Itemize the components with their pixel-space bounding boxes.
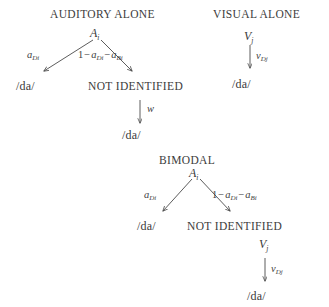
visual-edge-subscript: Dj bbox=[261, 55, 268, 63]
visual-edge-label: vDj bbox=[256, 51, 268, 62]
bimodal-left-outcome: /da/ bbox=[137, 220, 156, 232]
visual-edge-base: v bbox=[256, 50, 261, 61]
bimodal-secondary-node: Vj bbox=[259, 238, 269, 250]
bimodal-right-edge-label: 1−aDi−aBi bbox=[212, 190, 257, 201]
auditory-root-subscript: i bbox=[97, 33, 99, 42]
auditory-right-edge-term2-subscript: Bi bbox=[117, 54, 123, 62]
bimodal-left-edge-label: aDi bbox=[144, 190, 156, 201]
bimodal-right-edge-term2-subscript: Bi bbox=[251, 194, 257, 202]
auditory-left-edge-subscript: Di bbox=[32, 54, 39, 62]
visual-outcome: /da/ bbox=[232, 78, 251, 90]
bimodal-left-branch-arrow bbox=[163, 179, 192, 211]
bimodal-right-edge-term1-subscript: Di bbox=[230, 194, 237, 202]
bimodal-secondary-edge-base: v bbox=[271, 263, 276, 274]
visual-root-subscript: j bbox=[251, 36, 253, 45]
auditory-right-edge-term1-subscript: Di bbox=[96, 54, 103, 62]
bimodal-right-edge-minus-1: − bbox=[217, 189, 225, 200]
bimodal-secondary-subscript: j bbox=[266, 244, 268, 253]
auditory-left-outcome: /da/ bbox=[16, 80, 35, 92]
bimodal-secondary-edge-label: vDj bbox=[271, 264, 283, 275]
visual-alone-heading: VISUAL ALONE bbox=[213, 9, 300, 21]
auditory-right-edge-term2-base: a bbox=[111, 49, 116, 60]
auditory-right-edge-minus-1: − bbox=[83, 49, 91, 60]
visual-root-node: Vj bbox=[244, 30, 254, 42]
bimodal-not-identified-node: NOT IDENTIFIED bbox=[187, 221, 282, 233]
bimodal-secondary-edge-subscript: Dj bbox=[276, 268, 283, 276]
auditory-not-identified-node: NOT IDENTIFIED bbox=[88, 81, 183, 93]
bimodal-left-edge-subscript: Di bbox=[149, 194, 156, 202]
bimodal-right-edge-term2-base: a bbox=[245, 189, 250, 200]
bimodal-secondary-outcome: /da/ bbox=[247, 290, 266, 302]
auditory-root-node: Ai bbox=[90, 27, 100, 39]
auditory-recovery-edge-label: w bbox=[147, 104, 154, 115]
bimodal-root-subscript: i bbox=[196, 173, 198, 182]
auditory-left-edge-label: aDi bbox=[27, 50, 39, 61]
auditory-alone-heading: AUDITORY ALONE bbox=[50, 9, 155, 21]
auditory-right-edge-label: 1−aDi−aBi bbox=[78, 50, 123, 61]
figure-canvas: AUDITORY ALONE Ai aDi 1−aDi−aBi /da/ NOT… bbox=[0, 0, 329, 307]
bimodal-heading: BIMODAL bbox=[159, 155, 215, 167]
bimodal-root-node: Ai bbox=[189, 167, 199, 179]
auditory-recovery-outcome: /da/ bbox=[122, 129, 141, 141]
